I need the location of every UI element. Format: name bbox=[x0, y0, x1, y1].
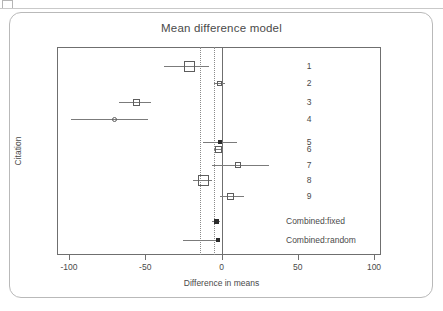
x-tick bbox=[374, 255, 375, 260]
forest-plot: Mean difference model Citation 123456789… bbox=[0, 0, 443, 311]
effect-marker bbox=[217, 81, 222, 86]
screenshot-root: Mean difference model Citation 123456789… bbox=[0, 0, 443, 311]
effect-marker bbox=[218, 140, 222, 144]
effect-marker bbox=[235, 162, 241, 168]
row-label-2: 2 bbox=[299, 78, 319, 88]
x-tick bbox=[298, 255, 299, 260]
row-label-combined-random: Combined:random bbox=[286, 235, 356, 245]
effect-marker bbox=[215, 146, 222, 153]
y-axis-title: Citation bbox=[13, 137, 23, 166]
effect-marker bbox=[227, 193, 234, 200]
row-label-8: 8 bbox=[299, 175, 319, 185]
row-label-7: 7 bbox=[299, 160, 319, 170]
effect-marker bbox=[216, 238, 220, 242]
effect-marker bbox=[184, 61, 195, 72]
row-label-3: 3 bbox=[299, 97, 319, 107]
row-label-9: 9 bbox=[299, 191, 319, 201]
x-tick-label: 100 bbox=[354, 262, 394, 272]
x-tick-label: -50 bbox=[125, 262, 165, 272]
row-label-1: 1 bbox=[299, 61, 319, 71]
effect-marker bbox=[112, 117, 117, 122]
effect-marker bbox=[133, 99, 140, 106]
row-label-4: 4 bbox=[299, 114, 319, 124]
confidence-interval-line bbox=[183, 240, 220, 241]
dotted-reference-line-1 bbox=[200, 47, 201, 255]
row-label-6: 6 bbox=[299, 144, 319, 154]
chart-title: Mean difference model bbox=[0, 22, 443, 34]
x-tick bbox=[69, 255, 70, 260]
x-tick-label: 0 bbox=[202, 262, 242, 272]
effect-marker bbox=[214, 219, 219, 224]
x-tick bbox=[222, 255, 223, 260]
x-tick-label: 50 bbox=[278, 262, 318, 272]
confidence-interval-line bbox=[71, 119, 149, 120]
x-tick-label: -100 bbox=[49, 262, 89, 272]
effect-marker bbox=[198, 175, 209, 186]
x-axis-title: Difference in means bbox=[0, 278, 443, 288]
x-tick bbox=[145, 255, 146, 260]
row-label-combined-fixed: Combined:fixed bbox=[286, 216, 345, 226]
